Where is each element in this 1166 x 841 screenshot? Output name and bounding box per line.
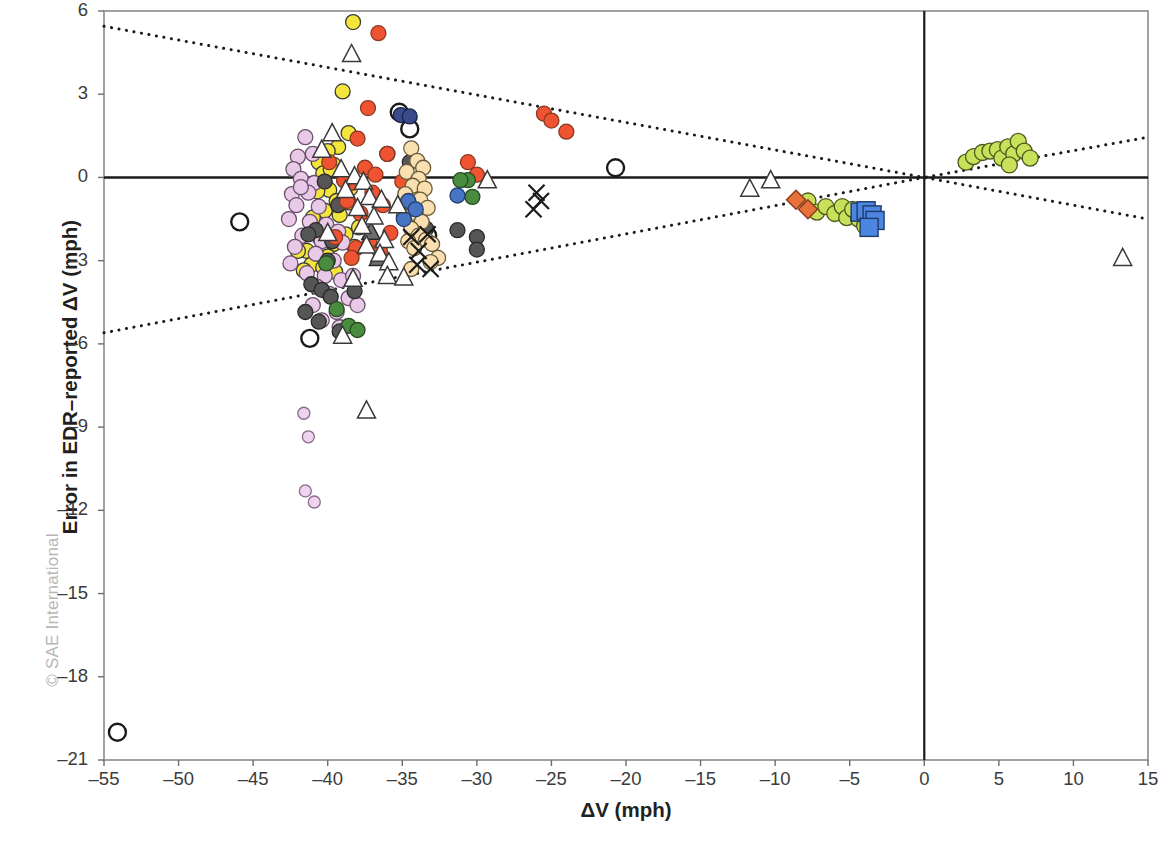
marker-x-mark xyxy=(529,185,545,201)
marker-open-circle xyxy=(607,159,624,176)
series-plum-circle-small xyxy=(298,407,320,508)
marker-plum-circle xyxy=(311,199,326,214)
marker-gray-circle xyxy=(298,304,313,319)
marker-plum-circle xyxy=(298,130,313,145)
marker-orange-circle xyxy=(544,113,559,128)
plot-area xyxy=(0,0,1166,841)
marker-open-circle xyxy=(301,330,318,347)
marker-blue-square xyxy=(860,218,878,236)
marker-open-circle xyxy=(231,213,248,230)
marker-yellow-circle xyxy=(346,15,361,30)
marker-gray-circle xyxy=(301,227,316,242)
scatter-chart: © SAE International Error in EDR–reporte… xyxy=(0,0,1166,841)
marker-orange-circle xyxy=(380,146,395,161)
marker-orange-circle xyxy=(368,167,383,182)
marker-gray-circle xyxy=(311,314,326,329)
marker-plum-circle xyxy=(287,239,302,254)
marker-plum-circle-small xyxy=(308,496,320,508)
marker-blue-circle xyxy=(396,212,411,227)
marker-green-circle xyxy=(319,256,334,271)
marker-green-circle xyxy=(329,302,344,317)
marker-yellowgreen-circle xyxy=(1001,157,1017,173)
marker-orange-circle xyxy=(559,124,574,139)
marker-yellow-circle xyxy=(335,84,350,99)
marker-tan-circle xyxy=(407,241,422,256)
marker-plum-circle xyxy=(281,212,296,227)
marker-gray-circle xyxy=(469,242,484,257)
marker-plum-circle-small xyxy=(298,407,310,419)
marker-open-triangle xyxy=(343,44,361,61)
marker-yellowgreen-circle xyxy=(1022,150,1038,166)
marker-blue-circle xyxy=(450,188,465,203)
marker-orange-circle xyxy=(360,101,375,116)
marker-plum-circle-small xyxy=(302,431,314,443)
marker-open-triangle xyxy=(323,124,341,141)
series-blue-square xyxy=(851,202,884,237)
marker-orange-circle xyxy=(350,131,365,146)
marker-green-circle xyxy=(465,189,480,204)
marker-plum-circle xyxy=(293,180,308,195)
lower-bound-band xyxy=(104,177,1148,332)
marker-gray-circle xyxy=(450,223,465,238)
marker-x-mark xyxy=(526,201,542,217)
marker-open-triangle xyxy=(762,171,780,188)
marker-orange-circle xyxy=(371,26,386,41)
marker-open-triangle xyxy=(741,179,759,196)
series-navy-circle xyxy=(393,108,417,124)
marker-plum-circle-small xyxy=(299,485,311,497)
marker-open-triangle xyxy=(1114,248,1132,265)
marker-plum-circle xyxy=(350,298,365,313)
marker-plum-circle xyxy=(289,198,304,213)
marker-green-circle xyxy=(350,323,365,338)
marker-gray-circle xyxy=(317,174,332,189)
series-yellowgreen-circle xyxy=(800,133,1038,234)
marker-open-triangle xyxy=(357,401,375,418)
marker-navy-circle xyxy=(402,109,417,124)
marker-open-circle xyxy=(109,724,126,741)
marker-green-circle xyxy=(453,173,468,188)
marker-plum-circle xyxy=(283,256,298,271)
